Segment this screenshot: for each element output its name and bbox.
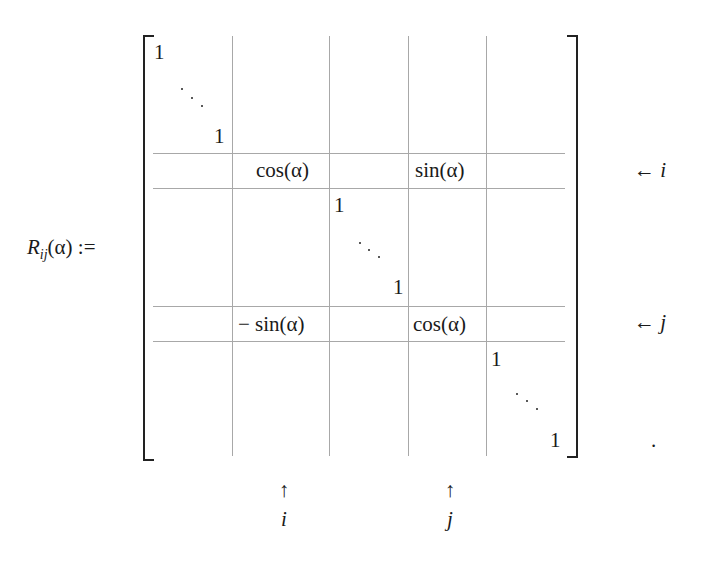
matrix-entry-one: 1 [214,126,225,147]
up-arrow-icon: ↑ [276,480,292,501]
up-arrow-icon: ↑ [442,480,458,501]
terminal-period: . [651,430,656,451]
matrix-symbol: R [27,235,40,259]
matrix-entry-cos-ii: cos(α) [256,160,309,181]
row-label-j: ← j [634,312,666,333]
matrix-entry-cos-jj: cos(α) [413,314,466,335]
column-label-i: ↑ i [276,480,292,530]
matrix-entry-one: 1 [491,349,502,370]
grid-line-horizontal [153,341,565,342]
matrix-entry-neg-sin-ji: − sin(α) [238,314,305,335]
grid-line-vertical [486,36,487,456]
grid-line-horizontal [153,153,565,154]
grid-line-vertical [232,36,233,456]
left-arrow-icon: ← [634,158,655,182]
matrix-argument: (α) [48,235,73,259]
grid-line-horizontal [153,188,565,189]
matrix-entry-one: 1 [393,277,404,298]
matrix-entry-sin-ij: sin(α) [415,160,465,181]
assignment-operator: := [78,235,96,259]
column-label-j: ↑ j [442,480,458,530]
right-bracket [567,35,578,458]
matrix-subscript: ij [40,247,48,262]
row-label-i: ← i [634,160,666,181]
matrix-entry-one: 1 [334,195,345,216]
matrix-entry-one: 1 [154,42,165,63]
left-arrow-icon: ← [634,310,655,334]
left-bracket [143,35,154,461]
matrix-definition-lhs: Rij(α) := [27,237,96,258]
grid-line-vertical [408,36,409,456]
matrix-entry-one: 1 [550,430,561,451]
grid-line-horizontal [153,306,565,307]
grid-line-vertical [329,36,330,456]
